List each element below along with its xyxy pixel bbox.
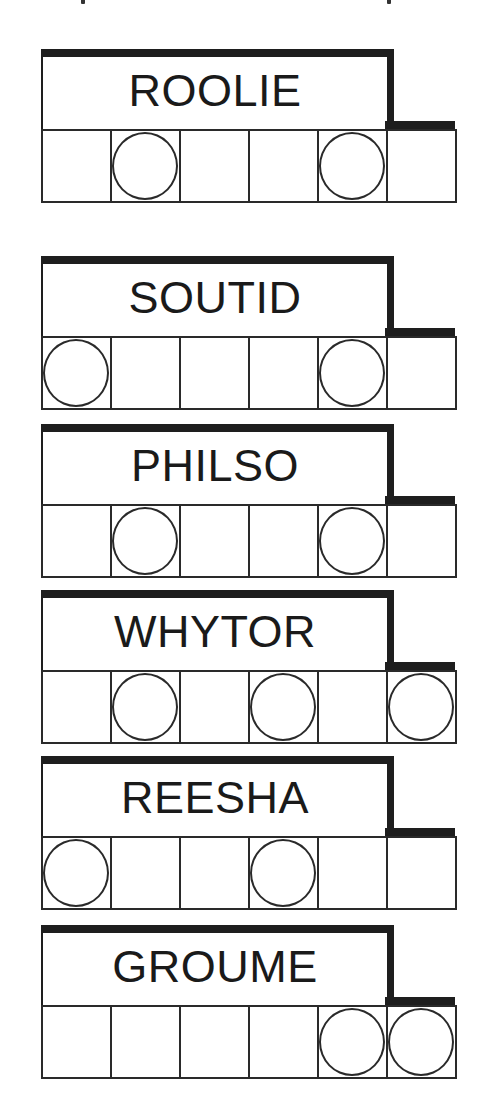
answer-cells (41, 129, 457, 203)
answer-cell[interactable] (386, 338, 457, 408)
scrambled-word: ROOLIE (43, 63, 387, 119)
answer-cell[interactable] (110, 672, 179, 742)
clipped-text-remnant (0, 0, 503, 6)
answer-cell[interactable] (110, 506, 179, 576)
answer-cells (41, 336, 457, 410)
step-bar (385, 328, 455, 336)
answer-cell[interactable] (179, 338, 248, 408)
answer-cell[interactable] (110, 131, 179, 201)
step-bar (385, 662, 455, 670)
answer-cell[interactable] (386, 672, 457, 742)
answer-cell[interactable] (179, 672, 248, 742)
jumble-word-5: REESHA (41, 756, 455, 906)
step-bar (385, 828, 455, 836)
answer-cell[interactable] (179, 838, 248, 908)
answer-cell[interactable] (317, 131, 386, 201)
answer-cell[interactable] (179, 131, 248, 201)
scrambled-word-box: GROUME (41, 925, 394, 1005)
answer-cell[interactable] (41, 838, 110, 908)
answer-cell[interactable] (386, 131, 457, 201)
answer-cells (41, 836, 457, 910)
answer-cell[interactable] (41, 506, 110, 576)
step-bar (385, 997, 455, 1005)
answer-cell[interactable] (41, 131, 110, 201)
answer-cell[interactable] (317, 338, 386, 408)
answer-cell[interactable] (386, 1007, 457, 1077)
answer-cell[interactable] (110, 838, 179, 908)
answer-cell[interactable] (41, 1007, 110, 1077)
answer-cell[interactable] (386, 838, 457, 908)
circled-letter-marker (43, 339, 109, 407)
answer-cell[interactable] (179, 506, 248, 576)
answer-cell[interactable] (248, 672, 317, 742)
jumble-word-1: ROOLIE (41, 49, 455, 199)
answer-cell[interactable] (179, 1007, 248, 1077)
jumble-word-3: PHILSO (41, 424, 455, 574)
circled-letter-marker (388, 1008, 454, 1076)
circled-letter-marker (250, 839, 316, 907)
circled-letter-marker (112, 507, 178, 575)
answer-cell[interactable] (110, 1007, 179, 1077)
circled-letter-marker (250, 673, 316, 741)
descender-mark (81, 0, 85, 4)
step-bar (385, 496, 455, 504)
circled-letter-marker (319, 339, 385, 407)
scrambled-word-box: SOUTID (41, 256, 394, 336)
jumble-word-2: SOUTID (41, 256, 455, 406)
answer-cell[interactable] (41, 672, 110, 742)
jumble-word-4: WHYTOR (41, 590, 455, 740)
circled-letter-marker (319, 132, 385, 200)
circled-letter-marker (388, 673, 454, 741)
answer-cells (41, 670, 457, 744)
scrambled-word: PHILSO (43, 438, 387, 494)
step-bar (385, 121, 455, 129)
scrambled-word: SOUTID (43, 270, 387, 326)
scrambled-word-box: ROOLIE (41, 49, 394, 129)
answer-cell[interactable] (317, 1007, 386, 1077)
scrambled-word: GROUME (43, 939, 387, 995)
answer-cell[interactable] (317, 838, 386, 908)
circled-letter-marker (319, 507, 385, 575)
answer-cell[interactable] (248, 506, 317, 576)
answer-cell[interactable] (248, 131, 317, 201)
scrambled-word-box: WHYTOR (41, 590, 394, 670)
answer-cell[interactable] (41, 338, 110, 408)
circled-letter-marker (43, 839, 109, 907)
circled-letter-marker (112, 132, 178, 200)
answer-cell[interactable] (110, 338, 179, 408)
answer-cell[interactable] (317, 506, 386, 576)
descender-mark (387, 0, 391, 4)
answer-cells (41, 1005, 457, 1079)
scrambled-word: WHYTOR (43, 604, 387, 660)
jumble-word-6: GROUME (41, 925, 455, 1075)
answer-cells (41, 504, 457, 578)
circled-letter-marker (112, 673, 178, 741)
circled-letter-marker (319, 1008, 385, 1076)
answer-cell[interactable] (248, 1007, 317, 1077)
scrambled-word: REESHA (43, 770, 387, 826)
answer-cell[interactable] (317, 672, 386, 742)
answer-cell[interactable] (386, 506, 457, 576)
answer-cell[interactable] (248, 338, 317, 408)
scrambled-word-box: REESHA (41, 756, 394, 836)
answer-cell[interactable] (248, 838, 317, 908)
scrambled-word-box: PHILSO (41, 424, 394, 504)
